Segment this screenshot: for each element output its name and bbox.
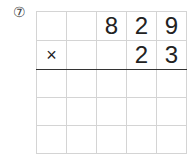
- grid-cell: 8: [97, 12, 127, 41]
- answer-cell[interactable]: [157, 126, 187, 154]
- answer-row: [37, 70, 187, 98]
- answer-cell[interactable]: [67, 98, 97, 126]
- multiply-sign: ×: [37, 41, 67, 70]
- grid-cell: 3: [157, 41, 187, 70]
- grid-cell: 2: [127, 41, 157, 70]
- grid-cell: [67, 41, 97, 70]
- answer-cell[interactable]: [157, 98, 187, 126]
- answer-cell[interactable]: [67, 126, 97, 154]
- problem-number: ⑦: [12, 5, 26, 19]
- answer-cell[interactable]: [127, 70, 157, 98]
- grid-cell: 2: [127, 12, 157, 41]
- grid-cell: [37, 12, 67, 41]
- answer-row: [37, 98, 187, 126]
- multiplication-grid: 8 2 9 × 2 3: [36, 11, 187, 154]
- answer-cell[interactable]: [157, 70, 187, 98]
- answer-cell[interactable]: [97, 98, 127, 126]
- answer-cell[interactable]: [37, 70, 67, 98]
- answer-cell[interactable]: [67, 70, 97, 98]
- answer-row: [37, 126, 187, 154]
- multiplicand-row: 8 2 9: [37, 12, 187, 41]
- grid-cell: 9: [157, 12, 187, 41]
- answer-cell[interactable]: [97, 70, 127, 98]
- multiplier-row: × 2 3: [37, 41, 187, 70]
- answer-cell[interactable]: [97, 126, 127, 154]
- answer-cell[interactable]: [37, 126, 67, 154]
- grid-cell: [67, 12, 97, 41]
- answer-cell[interactable]: [127, 98, 157, 126]
- grid-cell: [97, 41, 127, 70]
- answer-cell[interactable]: [127, 126, 157, 154]
- answer-cell[interactable]: [37, 98, 67, 126]
